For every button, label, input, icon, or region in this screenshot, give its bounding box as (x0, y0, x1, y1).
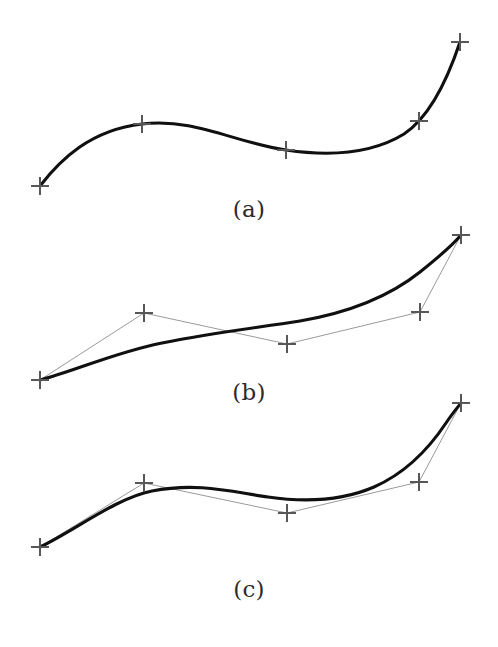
curve-b (40, 235, 461, 380)
panel-caption-c: (c) (0, 578, 498, 601)
control-point-marker-b-2 (135, 304, 153, 322)
panel-caption-b: (b) (0, 381, 498, 404)
control-point-marker-a-2 (133, 115, 151, 133)
curve-c (40, 403, 461, 547)
control-point-marker-c-4 (410, 473, 428, 491)
curve-figure: (a) (b) (c) (0, 0, 498, 647)
curve-figure-canvas (0, 0, 498, 647)
control-point-marker-a-5 (451, 33, 469, 51)
control-point-marker-a-3 (277, 141, 295, 159)
panel-c (31, 394, 470, 556)
control-point-marker-b-4 (411, 303, 429, 321)
panel-caption-a: (a) (0, 198, 498, 221)
control-point-marker-c-2 (135, 474, 153, 492)
panel-b (31, 226, 470, 389)
panel-a (31, 33, 469, 195)
control-point-marker-c-1 (31, 538, 49, 556)
control-point-marker-c-3 (278, 504, 296, 522)
curve-a (40, 42, 460, 186)
control-point-marker-b-3 (278, 335, 296, 353)
